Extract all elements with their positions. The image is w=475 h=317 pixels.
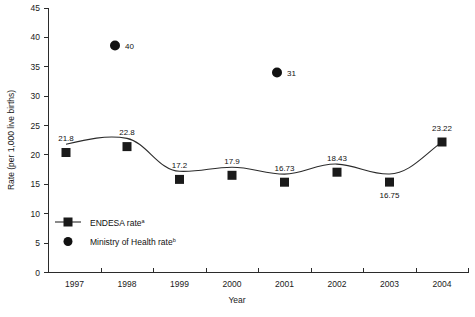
data-marker-2001 bbox=[280, 178, 289, 187]
y-tick-label: 25 bbox=[31, 121, 41, 131]
legend-label-moh: Ministry of Health rateb bbox=[90, 237, 176, 247]
endesa-value-labels: 21.8 22.8 17.2 17.9 16.73 18.43 16.75 23… bbox=[58, 124, 452, 200]
y-axis-tick-labels: 0 5 10 15 20 25 30 35 40 45 bbox=[31, 3, 41, 278]
chart-canvas: 0 5 10 15 20 25 30 35 40 45 Rate (per 1,… bbox=[0, 0, 475, 317]
value-label-moh-1998: 40 bbox=[125, 42, 134, 51]
x-tick-label: 1997 bbox=[65, 279, 84, 289]
y-tick-label: 45 bbox=[31, 3, 41, 13]
y-axis-ticks bbox=[44, 8, 49, 273]
value-label-2002: 18.43 bbox=[327, 154, 348, 163]
x-tick-label: 2001 bbox=[275, 279, 294, 289]
x-axis-tick-labels: 1997 1998 1999 2000 2001 2002 2003 2004 bbox=[65, 279, 452, 289]
data-marker-moh-1998 bbox=[110, 41, 120, 51]
value-label-1997: 21.8 bbox=[58, 134, 74, 143]
x-tick-label: 2002 bbox=[328, 279, 347, 289]
y-tick-label: 40 bbox=[31, 32, 41, 42]
x-axis-title: Year bbox=[228, 295, 245, 305]
value-label-1998: 22.8 bbox=[119, 128, 135, 137]
y-tick-label: 20 bbox=[31, 150, 41, 160]
x-axis-ticks bbox=[49, 268, 469, 273]
line-chart: 0 5 10 15 20 25 30 35 40 45 Rate (per 1,… bbox=[0, 0, 475, 317]
moh-markers: 40 31 bbox=[110, 41, 296, 78]
x-tick-label: 2004 bbox=[433, 279, 452, 289]
endesa-markers bbox=[62, 138, 447, 187]
value-label-moh-2001: 31 bbox=[287, 69, 296, 78]
legend-item-endesa[interactable]: ENDESA ratea bbox=[55, 218, 146, 228]
x-tick-label: 1998 bbox=[118, 279, 137, 289]
legend-label-endesa: ENDESA ratea bbox=[90, 218, 146, 228]
value-label-2001: 16.73 bbox=[274, 164, 295, 173]
y-tick-label: 35 bbox=[31, 62, 41, 72]
data-marker-1998 bbox=[123, 142, 132, 151]
legend-circle-icon bbox=[64, 237, 73, 246]
y-tick-label: 5 bbox=[35, 238, 40, 248]
data-marker-1997 bbox=[62, 148, 71, 157]
data-marker-2003 bbox=[385, 178, 394, 187]
value-label-2000: 17.9 bbox=[224, 157, 240, 166]
endesa-series-line bbox=[66, 137, 442, 174]
data-marker-2004 bbox=[438, 138, 447, 147]
legend-item-moh[interactable]: Ministry of Health rateb bbox=[64, 237, 176, 247]
chart-legend: ENDESA ratea Ministry of Health rateb bbox=[55, 218, 176, 248]
y-tick-label: 30 bbox=[31, 91, 41, 101]
data-marker-1999 bbox=[175, 175, 184, 184]
y-axis-title: Rate (per 1,000 live births) bbox=[6, 90, 16, 190]
data-marker-2002 bbox=[333, 168, 342, 177]
x-tick-label: 2003 bbox=[380, 279, 399, 289]
x-tick-label: 2000 bbox=[223, 279, 242, 289]
value-label-2004: 23.22 bbox=[432, 124, 453, 133]
value-label-1999: 17.2 bbox=[172, 161, 188, 170]
legend-square-icon bbox=[64, 218, 73, 227]
data-marker-2000 bbox=[228, 171, 237, 180]
y-tick-label: 15 bbox=[31, 179, 41, 189]
data-marker-moh-2001 bbox=[272, 68, 282, 78]
y-tick-label: 0 bbox=[35, 268, 40, 278]
x-tick-label: 1999 bbox=[170, 279, 189, 289]
value-label-2003: 16.75 bbox=[379, 191, 400, 200]
y-tick-label: 10 bbox=[31, 209, 41, 219]
